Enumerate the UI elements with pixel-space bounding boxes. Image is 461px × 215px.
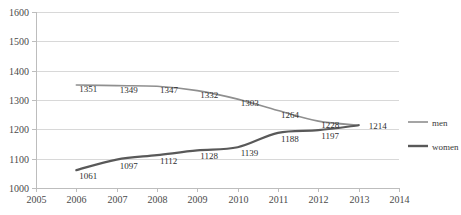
x-tick-label-2005: 2005 [27,194,47,205]
point-label-men-2010: 1303 [241,98,260,108]
gridlines-group [36,13,399,189]
point-label-men-2006: 1351 [79,84,97,94]
point-label-women-2006: 1061 [79,171,97,181]
point-label-men-2008: 1347 [160,85,179,95]
y-tick-label-1200: 1200 [9,124,29,135]
point-label-women-2009: 1128 [200,151,218,161]
y-tick-label-1000: 1000 [9,183,29,194]
point-label-men-2012: 1228 [321,120,340,130]
y-tick-label-1400: 1400 [9,66,29,77]
legend-label-men: men [432,118,448,128]
x-tick-label-2014: 2014 [390,194,410,205]
line-chart: 1000110012001300140015001600 20052006200… [0,0,461,215]
y-tick-label-1100: 1100 [9,154,29,165]
x-tick-label-2012: 2012 [309,194,329,205]
x-axis-tick-labels: 2005200620072008200920102011201220132014 [27,194,410,205]
point-label-women-2011: 1188 [281,134,299,144]
x-tick-label-2006: 2006 [67,194,87,205]
y-tick-label-1500: 1500 [9,36,29,47]
point-label-men-2007: 1349 [120,85,138,95]
x-tick-label-2013: 2013 [350,194,370,205]
y-tick-label-1300: 1300 [9,95,29,106]
point-label-women-2012: 1197 [321,131,339,141]
x-tick-label-2008: 2008 [148,194,168,205]
legend-label-women: women [432,142,459,152]
point-label-men-2009: 1332 [200,90,218,100]
x-tick-label-2010: 2010 [229,194,249,205]
point-label-women-2010: 1139 [241,148,259,158]
x-tick-label-2011: 2011 [269,194,289,205]
x-tick-label-2009: 2009 [188,194,208,205]
point-label-women-2008: 1112 [160,156,177,166]
point-label-women-2007: 1097 [120,161,138,171]
y-axis-tick-labels: 1000110012001300140015001600 [9,7,29,194]
x-tick-label-2007: 2007 [108,194,128,205]
tickmarks-group [32,13,400,193]
chart-legend: menwomen [408,118,459,152]
chart-canvas: 1000110012001300140015001600 20052006200… [0,0,461,215]
point-label-men-2011: 1264 [281,110,300,120]
point-label-men-2013: 1214 [369,121,388,131]
y-tick-label-1600: 1600 [9,7,29,18]
